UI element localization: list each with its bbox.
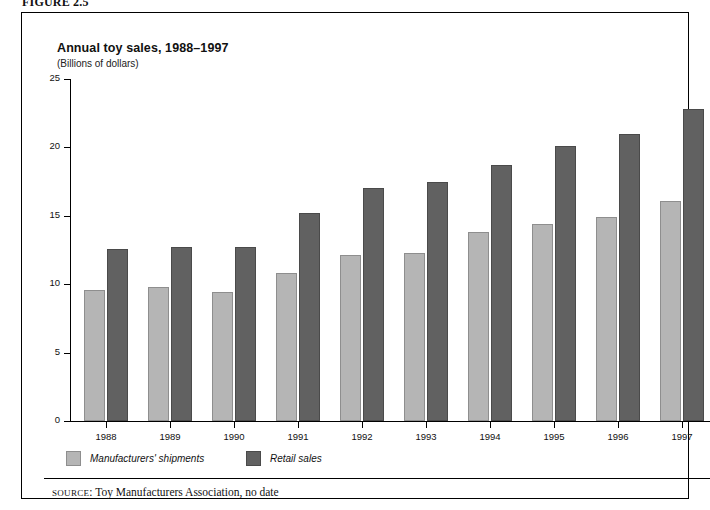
legend-swatch-icon bbox=[246, 451, 261, 466]
y-axis-tick-label: 5 bbox=[40, 346, 60, 357]
x-axis-tick-label: 1991 bbox=[287, 431, 308, 442]
bar-1996-shipments bbox=[596, 217, 617, 421]
bar-1994-shipments bbox=[468, 232, 489, 421]
bar-1990-shipments bbox=[212, 292, 233, 421]
legend-label: Manufacturers' shipments bbox=[90, 453, 204, 464]
bar-1997-retail bbox=[683, 109, 704, 421]
legend-swatch-icon bbox=[66, 451, 81, 466]
x-axis-tick bbox=[682, 422, 683, 428]
bar-1995-retail bbox=[555, 146, 576, 421]
figure-frame: Annual toy sales, 1988–1997 (Billions of… bbox=[21, 12, 689, 499]
y-axis-line bbox=[70, 79, 71, 422]
source-note: SOURCE: Toy Manufacturers Association, n… bbox=[52, 486, 279, 498]
y-axis-tick-label: 15 bbox=[40, 209, 60, 220]
bar-1996-retail bbox=[619, 134, 640, 421]
x-axis-tick-label: 1994 bbox=[479, 431, 500, 442]
y-axis-tick-label: 10 bbox=[40, 277, 60, 288]
legend-item-shipments: Manufacturers' shipments bbox=[66, 450, 204, 466]
chart-title: Annual toy sales, 1988–1997 bbox=[57, 41, 229, 55]
bar-1989-retail bbox=[171, 247, 192, 421]
y-axis-tick: 20 bbox=[64, 147, 70, 148]
legend-label: Retail sales bbox=[270, 453, 322, 464]
x-axis-tick-label: 1996 bbox=[607, 431, 628, 442]
x-axis-tick bbox=[234, 422, 235, 428]
x-axis-tick-label: 1995 bbox=[543, 431, 564, 442]
y-axis-tick: 0 bbox=[64, 421, 70, 422]
bar-1997-shipments bbox=[660, 201, 681, 421]
bar-1988-retail bbox=[107, 249, 128, 421]
x-axis-tick bbox=[490, 422, 491, 428]
y-axis-tick: 5 bbox=[64, 353, 70, 354]
x-axis-tick bbox=[554, 422, 555, 428]
y-axis-tick: 10 bbox=[64, 284, 70, 285]
y-axis-tick-label: 25 bbox=[40, 72, 60, 83]
bar-1991-shipments bbox=[276, 273, 297, 421]
x-axis-tick-label: 1990 bbox=[223, 431, 244, 442]
bar-1994-retail bbox=[491, 165, 512, 421]
x-axis-tick-label: 1997 bbox=[671, 431, 692, 442]
x-axis-tick bbox=[170, 422, 171, 428]
bar-1990-retail bbox=[235, 247, 256, 421]
y-axis-tick: 15 bbox=[64, 216, 70, 217]
plot-area: 0510152025198819891990199119921993199419… bbox=[70, 79, 710, 422]
bar-1992-shipments bbox=[340, 255, 361, 421]
source-divider bbox=[44, 478, 710, 479]
y-axis-tick-label: 20 bbox=[40, 140, 60, 151]
source-prefix: SOURCE bbox=[52, 488, 89, 498]
x-axis-tick-label: 1989 bbox=[159, 431, 180, 442]
x-axis-tick bbox=[362, 422, 363, 428]
bar-1989-shipments bbox=[148, 287, 169, 421]
x-axis-tick-label: 1992 bbox=[351, 431, 372, 442]
x-axis-line bbox=[70, 421, 710, 422]
bar-1988-shipments bbox=[84, 290, 105, 421]
bar-1993-shipments bbox=[404, 253, 425, 421]
figure-label: FIGURE 2.5 bbox=[22, 0, 89, 10]
chart-subtitle: (Billions of dollars) bbox=[57, 58, 139, 69]
x-axis-tick bbox=[426, 422, 427, 428]
legend-item-retail: Retail sales bbox=[246, 450, 322, 466]
bar-1995-shipments bbox=[532, 224, 553, 421]
x-axis-tick-label: 1993 bbox=[415, 431, 436, 442]
y-axis-tick: 25 bbox=[64, 79, 70, 80]
bar-1992-retail bbox=[363, 188, 384, 421]
x-axis-tick bbox=[298, 422, 299, 428]
x-axis-tick bbox=[618, 422, 619, 428]
x-axis-tick-label: 1988 bbox=[95, 431, 116, 442]
bar-1991-retail bbox=[299, 213, 320, 421]
y-axis-tick-label: 0 bbox=[40, 414, 60, 425]
source-text: Toy Manufacturers Association, no date bbox=[95, 486, 278, 498]
x-axis-tick bbox=[106, 422, 107, 428]
bar-1993-retail bbox=[427, 182, 448, 421]
